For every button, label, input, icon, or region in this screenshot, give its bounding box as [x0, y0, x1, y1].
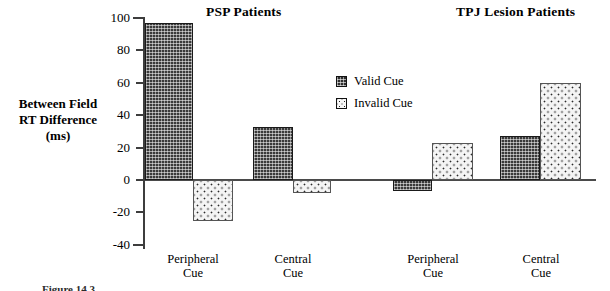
bar: [432, 143, 473, 180]
x-axis-category-label: CentralCue: [248, 252, 338, 280]
panel-title-psp: PSP Patients: [206, 4, 282, 20]
y-axis-tick-label-neg40: -40: [96, 238, 130, 251]
y-axis-tick-label-40: 40: [96, 108, 130, 121]
x-axis-category-label-line-1: Peripheral: [148, 252, 238, 266]
y-axis-tick-label-60: 60: [96, 76, 130, 89]
x-axis-category-label: PeripheralCue: [148, 252, 238, 280]
y-axis-tick-20: [136, 147, 145, 149]
y-axis-tick-neg40: [133, 244, 145, 246]
bar: [500, 136, 540, 180]
x-axis-category-label-line-2: Cue: [388, 266, 478, 280]
legend-item-invalid-cue: Invalid Cue: [336, 92, 413, 114]
legend-label-invalid-cue: Invalid Cue: [354, 96, 413, 111]
y-axis-tick-label-100: 100: [96, 11, 130, 24]
bar: [145, 23, 193, 180]
x-axis-category-label-line-1: Peripheral: [388, 252, 478, 266]
bar-chart-figure: PSP Patients TPJ Lesion Patients Between…: [0, 0, 610, 291]
legend-label-valid-cue: Valid Cue: [354, 74, 404, 89]
bar: [540, 83, 581, 180]
bar: [393, 180, 432, 191]
y-axis-tick-label-neg20: -20: [96, 205, 130, 218]
bar: [193, 180, 233, 221]
x-axis-category-label-line-2: Cue: [248, 266, 338, 280]
x-axis-category-label-line-2: Cue: [148, 266, 238, 280]
y-axis-tick-label-20: 20: [96, 141, 130, 154]
y-axis-tick-0: [136, 179, 145, 181]
legend: Valid Cue Invalid Cue: [336, 70, 413, 114]
y-axis-label-line-3: (ms): [6, 128, 110, 144]
legend-swatch-valid-cue-icon: [336, 76, 347, 87]
y-axis-tick-40: [136, 114, 145, 116]
x-axis-category-label-line-1: Central: [248, 252, 338, 266]
y-axis-tick-100: [133, 17, 145, 19]
y-axis-tick-80: [136, 49, 145, 51]
legend-swatch-invalid-cue-icon: [336, 98, 347, 109]
legend-item-valid-cue: Valid Cue: [336, 70, 413, 92]
y-axis-tick-neg20: [136, 211, 145, 213]
panel-title-tpj: TPJ Lesion Patients: [456, 4, 575, 20]
bar: [253, 127, 293, 180]
y-axis-tick-60: [136, 82, 145, 84]
x-axis-category-label: PeripheralCue: [388, 252, 478, 280]
bar: [293, 180, 331, 193]
figure-caption: Figure 14.3: [42, 283, 95, 291]
y-axis-label-line-2: RT Difference: [6, 112, 110, 128]
x-axis-category-label-line-1: Central: [496, 252, 586, 266]
y-axis-tick-label-0: 0: [96, 173, 130, 186]
y-axis-label: Between Field RT Difference (ms): [6, 96, 110, 144]
x-axis-category-label: CentralCue: [496, 252, 586, 280]
y-axis-label-line-1: Between Field: [6, 96, 110, 112]
x-axis-category-label-line-2: Cue: [496, 266, 586, 280]
y-axis-tick-label-80: 80: [96, 43, 130, 56]
